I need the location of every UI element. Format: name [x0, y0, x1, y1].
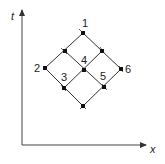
node-label-1: 1 [82, 18, 88, 29]
x-axis-label: x [150, 144, 156, 155]
region-label-5: 5 [100, 71, 106, 82]
node-right [119, 67, 123, 71]
node-label-4: 4 [81, 55, 87, 66]
node-center [82, 68, 86, 72]
node-label-2: 2 [34, 63, 40, 74]
node-lower-right [102, 85, 106, 89]
node-bottom [81, 104, 85, 108]
nodes [43, 31, 123, 108]
node-upper-left [63, 49, 67, 53]
t-axis-label: t [11, 11, 14, 22]
region-label-3: 3 [61, 72, 67, 83]
node-left [43, 66, 47, 70]
node-label-6: 6 [125, 64, 131, 75]
node-top [81, 31, 85, 35]
node-lower-left [62, 86, 66, 90]
node-upper-right [100, 49, 104, 53]
